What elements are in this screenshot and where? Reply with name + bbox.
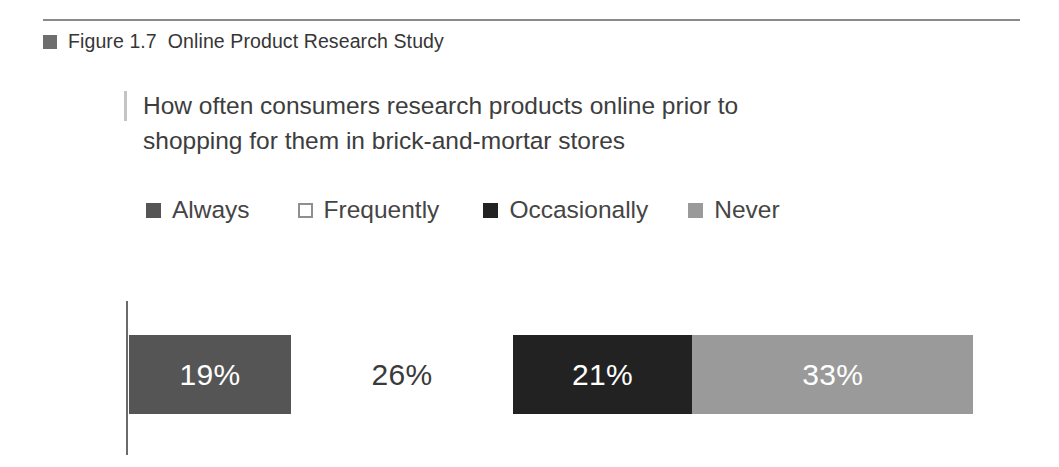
filled-square-icon <box>483 203 498 218</box>
chart-subtitle: How often consumers research products on… <box>124 88 738 158</box>
figure-header-rule <box>43 19 1020 21</box>
bar-value-label: 21% <box>572 360 633 390</box>
filled-square-icon <box>688 203 703 218</box>
bar-segment-frequently: 26% <box>291 335 513 414</box>
outlined-square-icon <box>298 203 313 218</box>
subtitle-line-1: How often consumers research products on… <box>143 88 738 123</box>
legend-label: Always <box>172 198 250 223</box>
subtitle-text: How often consumers research products on… <box>143 88 738 158</box>
legend-item-frequently[interactable]: Frequently <box>298 198 440 223</box>
subtitle-line-2: shopping for them in brick-and-mortar st… <box>143 123 738 158</box>
legend-label: Occasionally <box>509 198 648 223</box>
bar-value-label: 33% <box>802 360 863 390</box>
bar-segment-always: 19% <box>129 335 291 414</box>
bar-segment-never: 33% <box>692 335 973 414</box>
chart-legend: AlwaysFrequentlyOccasionallyNever <box>146 198 780 223</box>
bar-chart: 19%26%21%33% <box>0 0 1059 467</box>
figure-header: Figure 1.7 Online Product Research Study <box>43 30 444 53</box>
legend-item-occasionally[interactable]: Occasionally <box>483 198 648 223</box>
subtitle-tick-mark <box>124 91 127 121</box>
stacked-bar-row: 19%26%21%33% <box>129 335 973 414</box>
filled-square-icon <box>146 203 161 218</box>
bar-value-label: 19% <box>180 360 241 390</box>
bar-segment-occasionally: 21% <box>513 335 692 414</box>
legend-label: Frequently <box>324 198 440 223</box>
filled-square-icon <box>43 35 57 49</box>
bar-value-label: 26% <box>371 360 432 390</box>
legend-item-never[interactable]: Never <box>688 198 779 223</box>
figure-title: Figure 1.7 Online Product Research Study <box>68 30 444 53</box>
chart-y-axis-line <box>126 301 128 455</box>
legend-label: Never <box>714 198 779 223</box>
legend-item-always[interactable]: Always <box>146 198 250 223</box>
